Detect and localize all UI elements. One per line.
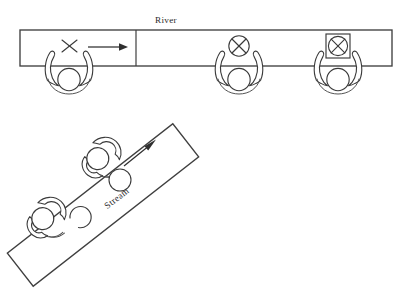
stream-view: Stream [7, 124, 198, 286]
boxed-circled-x-ball-icon [326, 34, 350, 58]
circled-x-ball-icon [229, 36, 249, 56]
diagram-root: River [0, 0, 411, 291]
river-label: River [155, 15, 177, 25]
ball-full-icon [109, 169, 131, 191]
diagram-canvas: River [0, 0, 411, 291]
river-view: River [20, 15, 392, 94]
